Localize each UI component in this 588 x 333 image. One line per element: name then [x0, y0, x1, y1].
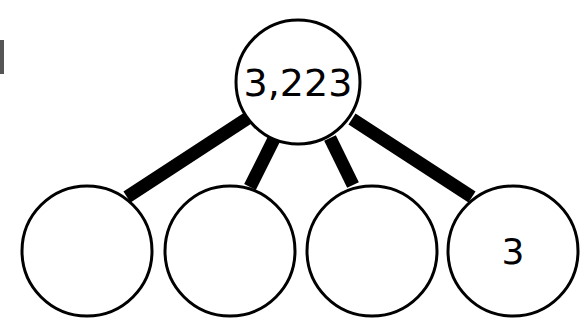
part-circle-2[interactable]	[165, 186, 295, 316]
part-circle-3[interactable]	[307, 186, 437, 316]
whole-value: 3,223	[244, 61, 353, 105]
number-bond-diagram: 3,223 3	[0, 0, 588, 333]
connector-3	[330, 138, 353, 185]
part-value-4: 3	[502, 231, 525, 272]
connector-2	[250, 139, 274, 187]
part-circle-1[interactable]	[22, 186, 152, 316]
